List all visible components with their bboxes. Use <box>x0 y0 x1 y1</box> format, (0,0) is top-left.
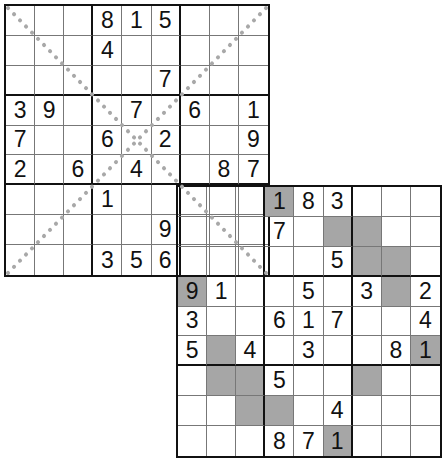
sudoku-cell[interactable]: 9 <box>35 96 64 126</box>
sudoku-cell[interactable] <box>294 247 323 277</box>
sudoku-cell[interactable]: 6 <box>93 126 122 156</box>
sudoku-cell[interactable] <box>324 217 353 247</box>
sudoku-cell[interactable]: 1 <box>239 96 268 126</box>
sudoku-cell[interactable]: 7 <box>122 96 151 126</box>
sudoku-cell[interactable] <box>411 217 440 247</box>
sudoku-cell[interactable] <box>6 245 35 275</box>
sudoku-cell[interactable] <box>236 217 265 247</box>
sudoku-cell[interactable] <box>411 426 440 456</box>
sudoku-cell[interactable]: 4 <box>324 396 353 426</box>
sudoku-cell[interactable]: 2 <box>411 277 440 307</box>
sudoku-cell[interactable] <box>6 215 35 245</box>
sudoku-cell[interactable]: 7 <box>152 66 181 96</box>
sudoku-cell[interactable]: 1 <box>93 185 122 215</box>
sudoku-cell[interactable] <box>35 66 64 96</box>
sudoku-cell[interactable] <box>64 185 93 215</box>
sudoku-cell[interactable] <box>411 247 440 277</box>
sudoku-cell[interactable] <box>236 277 265 307</box>
sudoku-cell[interactable] <box>239 6 268 36</box>
sudoku-cell[interactable] <box>181 66 210 96</box>
sudoku-cell[interactable] <box>152 36 181 66</box>
sudoku-cell[interactable] <box>6 36 35 66</box>
sudoku-cell[interactable] <box>122 66 151 96</box>
sudoku-cell[interactable] <box>93 215 122 245</box>
sudoku-cell[interactable] <box>178 366 207 396</box>
sudoku-cell[interactable] <box>236 426 265 456</box>
sudoku-cell[interactable]: 8 <box>265 426 294 456</box>
sudoku-cell[interactable] <box>353 307 382 337</box>
sudoku-cell[interactable]: 7 <box>6 126 35 156</box>
sudoku-cell[interactable] <box>210 6 239 36</box>
sudoku-cell[interactable]: 7 <box>265 217 294 247</box>
sudoku-cell[interactable] <box>178 396 207 426</box>
sudoku-cell[interactable]: 3 <box>353 277 382 307</box>
sudoku-cell[interactable] <box>294 366 323 396</box>
sudoku-cell[interactable] <box>210 96 239 126</box>
sudoku-cell[interactable] <box>382 307 411 337</box>
sudoku-cell[interactable]: 1 <box>324 426 353 456</box>
sudoku-cell[interactable] <box>411 396 440 426</box>
sudoku-cell[interactable] <box>236 366 265 396</box>
sudoku-cell[interactable]: 8 <box>93 6 122 36</box>
sudoku-cell[interactable]: 7 <box>239 155 268 185</box>
sudoku-cell[interactable]: 3 <box>294 336 323 366</box>
sudoku-cell[interactable] <box>207 336 236 366</box>
sudoku-cell[interactable]: 7 <box>294 426 323 456</box>
sudoku-cell[interactable]: 6 <box>64 155 93 185</box>
sudoku-cell[interactable] <box>93 96 122 126</box>
sudoku-cell[interactable] <box>207 396 236 426</box>
sudoku-cell[interactable] <box>207 426 236 456</box>
sudoku-cell[interactable] <box>353 426 382 456</box>
sudoku-cell[interactable] <box>382 217 411 247</box>
sudoku-cell[interactable] <box>265 396 294 426</box>
sudoku-cell[interactable] <box>35 215 64 245</box>
sudoku-cell[interactable] <box>35 36 64 66</box>
sudoku-cell[interactable] <box>64 215 93 245</box>
sudoku-cell[interactable] <box>207 366 236 396</box>
sudoku-cell[interactable] <box>35 126 64 156</box>
sudoku-cell[interactable] <box>324 336 353 366</box>
sudoku-cell[interactable]: 5 <box>265 366 294 396</box>
sudoku-cell[interactable] <box>265 277 294 307</box>
sudoku-cell[interactable]: 3 <box>93 245 122 275</box>
sudoku-cell[interactable] <box>122 36 151 66</box>
sudoku-cell[interactable]: 9 <box>178 277 207 307</box>
sudoku-cell[interactable] <box>382 187 411 217</box>
sudoku-cell[interactable]: 5 <box>152 6 181 36</box>
sudoku-cell[interactable]: 9 <box>239 126 268 156</box>
sudoku-cell[interactable] <box>122 215 151 245</box>
sudoku-cell[interactable] <box>294 396 323 426</box>
sudoku-cell[interactable] <box>64 36 93 66</box>
sudoku-cell[interactable] <box>178 217 207 247</box>
sudoku-cell[interactable] <box>93 155 122 185</box>
sudoku-cell[interactable] <box>178 247 207 277</box>
sudoku-cell[interactable] <box>181 6 210 36</box>
sudoku-cell[interactable] <box>382 426 411 456</box>
sudoku-cell[interactable] <box>207 187 236 217</box>
sudoku-cell[interactable] <box>294 217 323 247</box>
sudoku-cell[interactable] <box>6 66 35 96</box>
sudoku-cell[interactable]: 1 <box>122 6 151 36</box>
sudoku-cell[interactable] <box>324 366 353 396</box>
sudoku-cell[interactable] <box>35 185 64 215</box>
sudoku-cell[interactable]: 6 <box>265 307 294 337</box>
sudoku-cell[interactable] <box>236 247 265 277</box>
sudoku-cell[interactable] <box>353 217 382 247</box>
sudoku-cell[interactable] <box>152 155 181 185</box>
sudoku-cell[interactable]: 1 <box>411 336 440 366</box>
sudoku-cell[interactable] <box>178 426 207 456</box>
sudoku-cell[interactable]: 8 <box>382 336 411 366</box>
sudoku-cell[interactable]: 1 <box>294 307 323 337</box>
sudoku-cell[interactable] <box>181 126 210 156</box>
sudoku-cell[interactable] <box>411 187 440 217</box>
sudoku-cell[interactable] <box>353 247 382 277</box>
sudoku-cell[interactable] <box>178 187 207 217</box>
sudoku-cell[interactable] <box>353 336 382 366</box>
sudoku-cell[interactable] <box>122 126 151 156</box>
sudoku-cell[interactable]: 5 <box>294 277 323 307</box>
sudoku-cell[interactable] <box>239 66 268 96</box>
sudoku-cell[interactable] <box>265 336 294 366</box>
sudoku-cell[interactable] <box>64 66 93 96</box>
sudoku-cell[interactable] <box>207 247 236 277</box>
sudoku-cell[interactable]: 4 <box>93 36 122 66</box>
